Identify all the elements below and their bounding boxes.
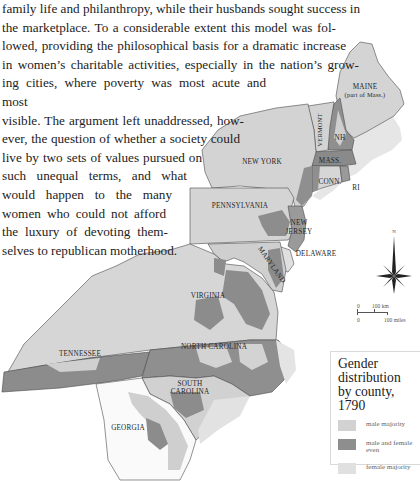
swatch-even — [338, 439, 356, 450]
swatch-male-majority — [338, 420, 356, 431]
legend-label: female majority — [366, 464, 411, 471]
text-line: ever, the question of whether a society … — [2, 130, 240, 149]
scale-tick — [387, 312, 388, 315]
text-line: in women’s charitable activities, especi… — [2, 56, 359, 75]
legend-title-line: by county, 1790 — [338, 385, 420, 413]
legend-item-even: male and female even — [338, 439, 420, 455]
legend-title: Gender distribution by county, 1790 — [338, 357, 420, 413]
legend-item-male-majority: male majority — [338, 420, 420, 431]
legend-label: male majority — [366, 421, 405, 428]
label-tennessee: TENNESSEE — [59, 350, 102, 358]
text-line: would happen to the many — [2, 186, 172, 205]
legend-label: male and female even — [366, 440, 412, 455]
legend-title-line: Gender — [338, 357, 420, 371]
body-text: family life and philanthropy, while thei… — [2, 0, 420, 260]
text-line: visible. The argument left unaddressed, … — [2, 112, 244, 131]
legend: Gender distribution by county, 1790 male… — [330, 351, 420, 465]
label-south-carolina-1: SOUTH — [178, 380, 203, 388]
text-line: lowed, providing the philosophical basis… — [2, 37, 346, 56]
scale-line — [357, 312, 387, 313]
swatch-female-majority — [338, 463, 356, 474]
text-line: women who could not afford — [2, 205, 166, 224]
text-line: selves to republican motherhood. — [2, 242, 174, 261]
scale-bar: 0 100 km 0 100 miles — [355, 303, 415, 331]
scale-tick — [374, 309, 375, 312]
label-north-carolina: NORTH CAROLINA — [181, 343, 248, 351]
legend-label-line: even — [366, 447, 412, 454]
label-virginia: VIRGINIA — [191, 292, 226, 300]
label-georgia: GEORGIA — [111, 424, 145, 432]
text-line: family life and philanthropy, while thei… — [2, 0, 416, 19]
scale-mi-label: 100 miles — [384, 317, 406, 323]
text-line: live by two sets of values pursued on — [2, 149, 202, 168]
legend-item-female-majority: female majority — [338, 463, 420, 474]
label-south-carolina-2: CAROLINA — [171, 388, 210, 396]
text-line: ing cities, where poverty was most acute… — [2, 74, 266, 111]
legend-title-line: distribution — [338, 371, 420, 385]
text-line: the marketplace. To a considerable exten… — [2, 19, 336, 38]
scale-mi-zero: 0 — [357, 317, 360, 323]
text-line: such unequal terms, and what — [2, 167, 187, 186]
text-line: the luxury of devoting them- — [2, 223, 168, 242]
scale-tick — [357, 309, 358, 315]
